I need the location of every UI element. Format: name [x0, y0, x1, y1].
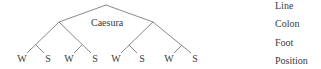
tree-branches — [27, 5, 191, 53]
level-label-position: Position — [275, 56, 308, 66]
position-s: S — [45, 54, 51, 64]
position-w: W — [111, 54, 120, 64]
level-label-line: Line — [275, 1, 293, 11]
position-s: S — [92, 54, 98, 64]
position-s: S — [139, 54, 145, 64]
level-label-foot: Foot — [275, 38, 293, 48]
position-w: W — [164, 54, 173, 64]
position-s: S — [192, 54, 198, 64]
position-w: W — [64, 54, 73, 64]
level-label-colon: Colon — [275, 19, 299, 29]
position-w: W — [17, 54, 26, 64]
caesura-label: Caesura — [91, 18, 123, 28]
